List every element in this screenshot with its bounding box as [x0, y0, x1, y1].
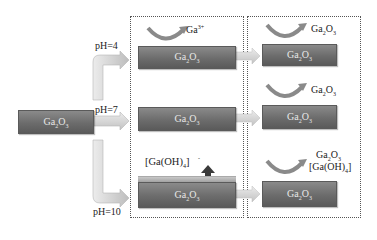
- arrow-ph4: [93, 51, 129, 100]
- middle-ga2o3-block-ph10: Ga2O3: [138, 182, 236, 208]
- gallate-ion-label-middle: [Ga(OH)4] -: [145, 153, 200, 172]
- ph7-label: pH=7: [95, 104, 118, 115]
- start-ga2o3-block: Ga2O3: [18, 110, 94, 134]
- gallate-product-label-ph10: [Ga(OH)4]: [309, 161, 351, 177]
- ga2o3-product-label-ph4: Ga2O3: [311, 23, 336, 39]
- curved-arrow-icon-final-ph7: [267, 83, 307, 96]
- curved-arrow-icon-mid-ph4: [148, 26, 188, 39]
- final-ga2o3-block-ph10: Ga2O3: [262, 181, 337, 207]
- arrow-ph10: [93, 140, 129, 207]
- curved-arrow-icon-final-ph10: [267, 159, 307, 172]
- ph4-label: pH=4: [95, 40, 118, 51]
- start-block-label: Ga2O3: [44, 116, 69, 129]
- ga3plus-ion-label: Ga3+: [186, 22, 204, 35]
- middle-ga2o3-block-ph7: Ga2O3: [138, 107, 236, 131]
- middle-ga2o3-block-ph4: Ga2O3: [138, 46, 236, 69]
- ga2o3-product-label-ph7: Ga2O3: [311, 84, 336, 100]
- final-ga2o3-block-ph7: Ga2O3: [262, 105, 337, 129]
- curved-arrow-icon-final-ph4: [267, 23, 307, 36]
- ph10-label: pH=10: [93, 206, 121, 217]
- final-ga2o3-block-ph4: Ga2O3: [262, 44, 337, 66]
